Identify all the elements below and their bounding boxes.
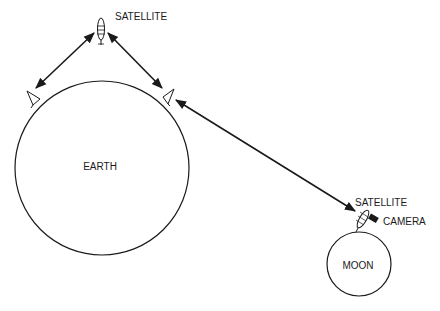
right-ground-antenna-icon (163, 89, 174, 106)
moon: MOON (327, 232, 391, 296)
earth-label: EARTH (83, 161, 117, 172)
earth: EARTH (15, 81, 189, 255)
earth-moon-link-arrow (176, 100, 355, 211)
top-satellite-label: SATELLITE (115, 11, 167, 22)
moon-label: MOON (342, 260, 373, 271)
moon-satellite-icon (355, 209, 371, 232)
camera-icon (368, 213, 379, 223)
uplink-arrow-right (108, 33, 162, 88)
relay-satellite-icon (97, 18, 105, 45)
left-ground-antenna-icon (27, 91, 40, 108)
satellite-relay-diagram: EARTH MOON SATELLITE SATELLITE CAMERA (0, 0, 440, 311)
camera-label: CAMERA (383, 216, 426, 227)
uplink-arrow-left (36, 33, 94, 88)
moon-satellite-label: SATELLITE (355, 197, 407, 208)
